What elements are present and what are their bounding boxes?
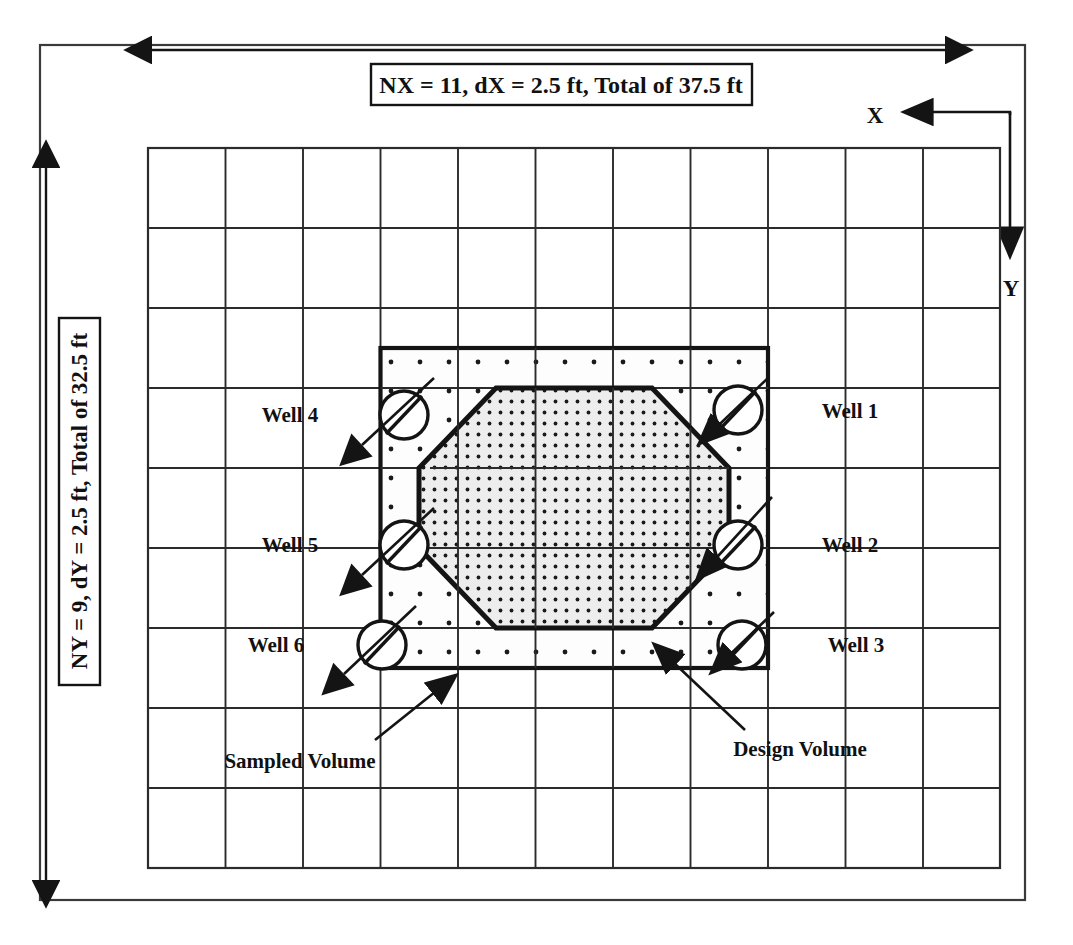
well-4-label: Well 4 <box>262 403 319 427</box>
well-5-label: Well 5 <box>262 533 319 557</box>
design-volume-region <box>419 388 729 628</box>
well-2-symbol[interactable] <box>714 521 762 569</box>
x-axis-label: X <box>867 103 884 128</box>
well-5-symbol[interactable] <box>380 521 428 569</box>
y-dimension-label: NY = 9, dY = 2.5 ft, Total of 32.5 ft <box>67 333 92 670</box>
well-1-symbol[interactable] <box>714 386 762 434</box>
figure-canvas: NX = 11, dX = 2.5 ft, Total of 37.5 ft N… <box>0 0 1073 945</box>
x-dimension-label: NX = 11, dX = 2.5 ft, Total of 37.5 ft <box>379 72 742 98</box>
y-dimension-label-group: NY = 9, dY = 2.5 ft, Total of 32.5 ft <box>59 318 100 685</box>
well-1-label: Well 1 <box>822 399 879 423</box>
sampled-volume-label: Sampled Volume <box>224 749 375 773</box>
well-4-symbol[interactable] <box>380 391 428 439</box>
y-axis-label: Y <box>1003 276 1020 301</box>
design-volume-octagon <box>419 388 729 628</box>
well-6-label: Well 6 <box>248 633 305 657</box>
engineering-grid-diagram: NX = 11, dX = 2.5 ft, Total of 37.5 ft N… <box>0 0 1073 945</box>
well-6-symbol[interactable] <box>358 621 406 669</box>
design-volume-label: Design Volume <box>733 737 867 761</box>
well-3-label: Well 3 <box>828 633 885 657</box>
well-2-label: Well 2 <box>822 533 879 557</box>
